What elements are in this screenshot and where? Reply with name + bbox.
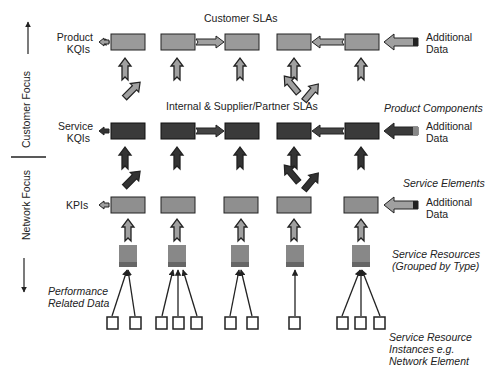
service-elements-label: Service Elements bbox=[403, 177, 485, 189]
resource-instances-label: Service Resource Instances e.g. Network … bbox=[389, 331, 472, 367]
diagram-canvas bbox=[0, 0, 497, 382]
additional-data-arrow-icon bbox=[384, 34, 418, 50]
product-kqis-label: Product KQIs bbox=[55, 31, 93, 55]
kpi-row bbox=[111, 197, 378, 213]
internal-slas-title: Internal & Supplier/Partner SLAs bbox=[166, 100, 318, 112]
network-focus-label: Network Focus bbox=[20, 170, 32, 240]
resource-instance-row bbox=[107, 317, 385, 329]
customer-focus-label: Customer Focus bbox=[20, 71, 32, 148]
customer-slas-title: Customer SLAs bbox=[204, 12, 278, 24]
right-arrow-icon bbox=[196, 36, 224, 48]
service-kqis-label: Service KQIs bbox=[55, 120, 93, 144]
service-resources-label: Service Resources (Grouped by Type) bbox=[392, 248, 480, 272]
additional-data-label-3: Additional Data bbox=[426, 196, 472, 220]
additional-data-label-2: Additional Data bbox=[426, 120, 472, 144]
kpis-label: KPIs bbox=[66, 199, 88, 211]
additional-data-label-1: Additional Data bbox=[426, 31, 472, 55]
performance-data-label: Performance Related Data bbox=[48, 285, 109, 309]
product-components-label: Product Components bbox=[384, 102, 483, 114]
left-arrow-icon bbox=[312, 36, 344, 48]
service-resource-row bbox=[119, 245, 370, 267]
